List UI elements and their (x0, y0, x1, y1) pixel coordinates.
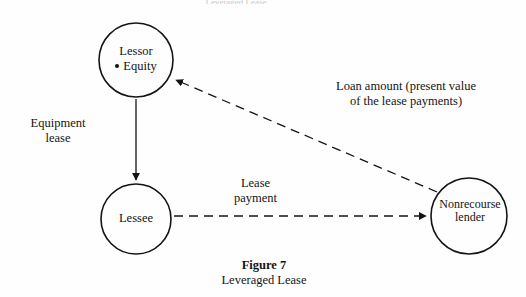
node-circle-lessor[interactable] (99, 23, 173, 97)
node-circle-nonrecourse-lender[interactable] (431, 178, 507, 254)
figure-caption-title: Leveraged Lease (191, 273, 337, 288)
edge-label-loan-amount: Loan amount (present value of the lease … (331, 79, 481, 109)
edge-label-lease-payment: Lease payment (203, 176, 308, 206)
node-circle-lessee[interactable] (101, 184, 171, 254)
figure-caption-number: Figure 7 (191, 258, 337, 273)
edge-label-equipment-lease: Equipment lease (8, 116, 108, 146)
lease-payment-line2: payment (234, 191, 277, 205)
lease-payment-line1: Lease (241, 176, 270, 190)
equipment-lease-line1: Equipment (31, 116, 86, 130)
loan-amount-line2: of the lease payments) (350, 94, 462, 108)
figure-caption: Figure 7 Leveraged Lease (191, 258, 337, 288)
diagram-canvas (0, 0, 526, 297)
equipment-lease-line2: lease (46, 131, 71, 145)
loan-amount-line1: Loan amount (present value (336, 79, 476, 93)
leveraged-lease-figure: Leveraged Lease Lessor Equity (0, 0, 526, 297)
